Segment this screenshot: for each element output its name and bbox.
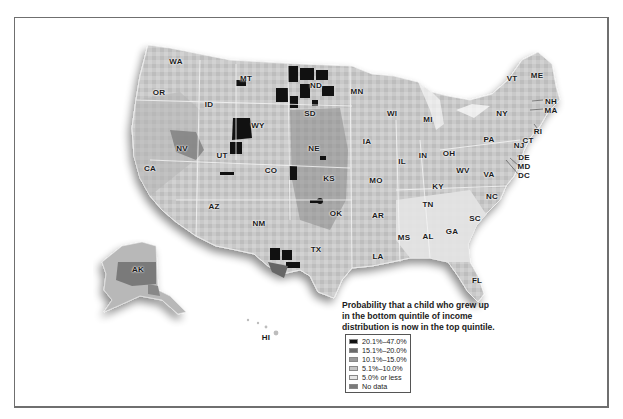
legend-label: 10.1%–15.0% bbox=[362, 355, 407, 364]
legend-item-10-15: 10.1%–15.0% bbox=[349, 355, 407, 364]
state-label-de: DE bbox=[518, 153, 530, 162]
legend-item-20-47: 20.1%–47.0% bbox=[349, 337, 407, 346]
legend-label: 20.1%–47.0% bbox=[362, 337, 407, 346]
state-label-id: ID bbox=[205, 100, 213, 109]
state-label-ut: UT bbox=[216, 151, 227, 160]
state-label-nc: NC bbox=[486, 192, 498, 201]
state-label-ms: MS bbox=[398, 233, 410, 242]
state-label-ne: NE bbox=[308, 144, 320, 153]
state-label-ok: OK bbox=[330, 209, 342, 218]
state-label-nv: NV bbox=[176, 144, 188, 153]
swatch-20-47 bbox=[349, 339, 358, 344]
state-label-vt: VT bbox=[507, 74, 518, 83]
state-label-ny: NY bbox=[496, 109, 508, 118]
state-label-wi: WI bbox=[387, 109, 397, 118]
legend-item-no-data: No data bbox=[349, 382, 407, 391]
state-label-va: VA bbox=[484, 170, 495, 179]
state-label-nm: NM bbox=[253, 219, 266, 228]
state-label-mt: MT bbox=[240, 74, 252, 83]
state-label-nj: NJ bbox=[514, 141, 525, 150]
swatch-5-10 bbox=[349, 366, 358, 371]
state-label-ca: CA bbox=[144, 164, 156, 173]
state-label-wa: WA bbox=[169, 57, 182, 66]
legend-label: 5.1%–10.0% bbox=[362, 364, 403, 373]
state-label-ky: KY bbox=[432, 182, 444, 191]
legend-caption: Probability that a child who grew up in … bbox=[342, 300, 542, 333]
state-label-nd: ND bbox=[310, 81, 322, 90]
state-label-md: MD bbox=[518, 162, 531, 171]
legend-item-15-20: 15.1%–20.0% bbox=[349, 346, 407, 355]
legend: 20.1%–47.0% 15.1%–20.0% 10.1%–15.0% 5.1%… bbox=[345, 334, 411, 393]
state-label-in: IN bbox=[419, 151, 427, 160]
state-label-or: OR bbox=[153, 88, 165, 97]
state-label-mn: MN bbox=[351, 87, 364, 96]
state-label-oh: OH bbox=[443, 149, 455, 158]
legend-label: 5.0% or less bbox=[362, 373, 402, 382]
state-label-sd: SD bbox=[304, 109, 316, 118]
caption-line-1: Probability that a child who grew up bbox=[342, 300, 542, 311]
state-label-tx: TX bbox=[311, 245, 322, 254]
swatch-10-15 bbox=[349, 357, 358, 362]
swatch-5-or-less bbox=[349, 375, 358, 380]
state-label-ar: AR bbox=[372, 211, 384, 220]
swatch-no-data bbox=[349, 384, 358, 389]
legend-label: No data bbox=[362, 382, 387, 391]
legend-label: 15.1%–20.0% bbox=[362, 346, 407, 355]
state-label-ri: RI bbox=[534, 127, 542, 136]
legend-item-5-or-less: 5.0% or less bbox=[349, 373, 407, 382]
state-label-hi: HI bbox=[262, 333, 270, 342]
state-label-ma: MA bbox=[545, 106, 558, 115]
state-label-al: AL bbox=[422, 232, 433, 241]
state-label-sc: SC bbox=[469, 214, 481, 223]
state-label-fl: FL bbox=[472, 276, 482, 285]
us-map bbox=[0, 0, 623, 419]
state-label-wv: WV bbox=[456, 166, 469, 175]
state-label-ak: AK bbox=[132, 265, 144, 274]
caption-line-2: in the bottom quintile of income bbox=[342, 311, 542, 322]
state-label-co: CO bbox=[265, 166, 277, 175]
state-label-mi: MI bbox=[423, 115, 432, 124]
state-label-tn: TN bbox=[422, 200, 433, 209]
state-label-la: LA bbox=[372, 252, 383, 261]
state-label-dc: DC bbox=[518, 171, 530, 180]
state-label-me: ME bbox=[531, 71, 543, 80]
state-label-pa: PA bbox=[484, 135, 495, 144]
caption-line-3: distribution is now in the top quintile. bbox=[342, 322, 542, 333]
state-label-ia: IA bbox=[363, 137, 371, 146]
state-label-ga: GA bbox=[446, 227, 458, 236]
legend-item-5-10: 5.1%–10.0% bbox=[349, 364, 407, 373]
state-label-mo: MO bbox=[369, 176, 382, 185]
state-label-il: IL bbox=[398, 157, 406, 166]
state-label-nh: NH bbox=[545, 97, 557, 106]
state-label-az: AZ bbox=[208, 202, 219, 211]
state-label-ks: KS bbox=[323, 174, 335, 183]
alaska bbox=[102, 242, 186, 314]
swatch-15-20 bbox=[349, 348, 358, 353]
state-label-wy: WY bbox=[251, 121, 264, 130]
